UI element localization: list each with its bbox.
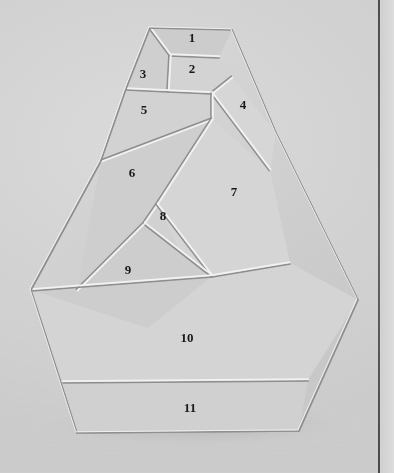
piece-label-10: 10 — [181, 330, 194, 345]
piece-label-4: 4 — [240, 97, 247, 112]
photograph-surface: 1234567891011 — [0, 0, 379, 473]
piece-label-6: 6 — [129, 165, 136, 180]
photo-right-margin — [381, 0, 394, 473]
piece-label-3: 3 — [140, 66, 147, 81]
piece-label-9: 9 — [125, 262, 132, 277]
piece-label-2: 2 — [189, 61, 196, 76]
screenshot-root: 1234567891011 — [0, 0, 394, 473]
piece-label-8: 8 — [160, 208, 167, 223]
piece-label-11: 11 — [184, 400, 196, 415]
piece-label-1: 1 — [189, 30, 196, 45]
photo-border-line — [378, 0, 380, 473]
piece-label-7: 7 — [231, 184, 238, 199]
piece-label-5: 5 — [141, 102, 148, 117]
puzzle-illustration: 1234567891011 — [0, 0, 379, 473]
